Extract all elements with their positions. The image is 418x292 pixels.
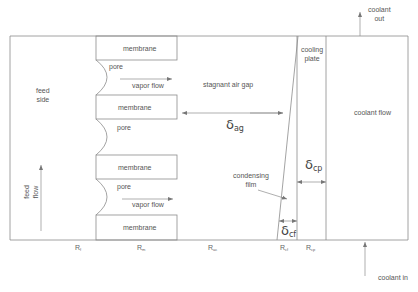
coolant-in-label: coolant in: [378, 273, 408, 282]
delta-ag-symbol: δag: [226, 118, 244, 136]
membrane-label-2: membrane: [118, 103, 151, 112]
feed-flow-label: feed flow: [22, 177, 40, 207]
condensing-film-label: condensing film: [233, 171, 269, 189]
feed-side-label: feed side: [36, 86, 50, 104]
pore-label-1: pore: [109, 62, 123, 71]
resistance-condensing-film-label: Rcf: [280, 244, 288, 252]
pore-label-2: pore: [117, 123, 131, 132]
membrane-label-4: membrane: [123, 223, 156, 232]
condensing-film-pointer: [258, 190, 287, 199]
resistance-cooling-plate-label: Rcp: [306, 244, 315, 252]
membrane-label-3: membrane: [118, 163, 151, 172]
condensing-film-line: [277, 36, 298, 240]
vapor-flow-label-1: vapor flow: [132, 81, 164, 90]
delta-cp-symbol: δcp: [305, 158, 322, 176]
delta-cf-symbol: δcf: [281, 224, 296, 242]
resistance-membrane-label: Rm: [137, 244, 145, 252]
coolant-flow-label: coolant flow: [354, 108, 391, 117]
resistance-feed-label: Rf: [75, 244, 81, 252]
membrane-label-1: membrane: [123, 44, 156, 53]
pore-arc-3: [96, 179, 107, 215]
pore-label-3: pore: [117, 182, 131, 191]
coolant-out-label: coolant out: [368, 5, 391, 23]
pore-arc-2: [96, 119, 107, 155]
resistance-air-gap-label: Rac: [208, 244, 217, 252]
stagnant-air-gap-label: stagnant air gap: [203, 80, 253, 89]
vapor-flow-label-2: vapor flow: [132, 200, 164, 209]
pore-arc-1: [96, 60, 107, 95]
cooling-plate-label: cooling plate: [298, 45, 326, 63]
